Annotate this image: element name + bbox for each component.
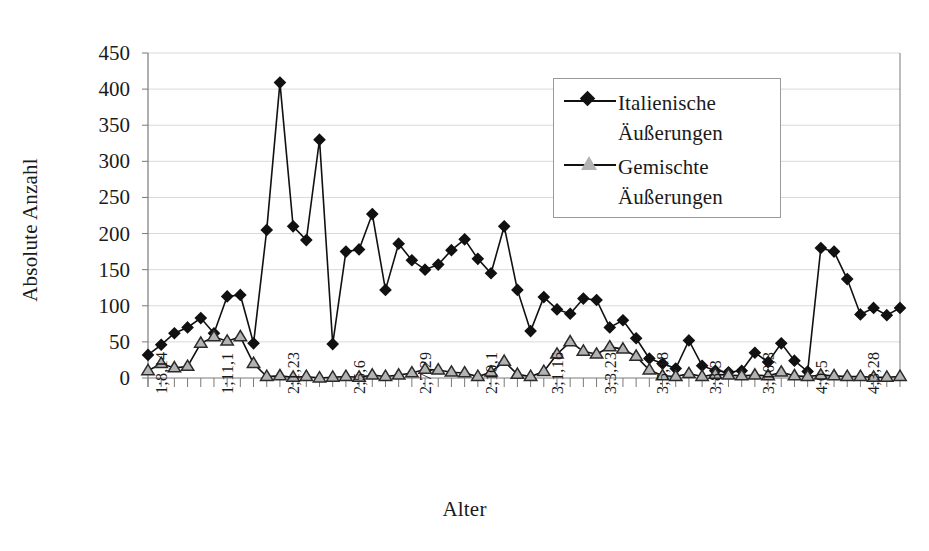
data-point-diamond (842, 274, 852, 284)
data-point-diamond (855, 309, 865, 319)
data-point-triangle (683, 367, 695, 377)
data-point-diamond (605, 322, 615, 332)
diamond-marker-icon (562, 88, 618, 114)
x-axis-title: Alter (0, 497, 929, 522)
y-tick-label: 50 (72, 331, 130, 352)
data-point-diamond (882, 310, 892, 320)
data-point-triangle (841, 370, 853, 380)
y-tick-label: 450 (72, 43, 130, 64)
data-point-diamond (525, 326, 535, 336)
x-tick-label: 2;5,6 (352, 360, 368, 394)
x-tick-label: 4;0,5 (814, 360, 830, 394)
x-tick-label: 1;8,14 (154, 352, 170, 394)
data-point-diamond (895, 303, 905, 313)
data-point-diamond (499, 221, 509, 231)
series-line-italienische (148, 83, 900, 373)
y-axis-title: Absolute Anzahl (18, 120, 43, 340)
data-point-triangle (881, 371, 893, 381)
data-point-triangle (181, 360, 193, 370)
data-point-diamond (512, 285, 522, 295)
y-tick-label: 400 (72, 79, 130, 100)
chart-figure: Absolute Anzahl 050100150200250300350400… (0, 0, 929, 551)
y-tick-label: 300 (72, 151, 130, 172)
x-tick-label: 2;10,1 (484, 352, 500, 394)
data-point-diamond (248, 338, 258, 348)
data-point-diamond (380, 285, 390, 295)
data-point-triangle (564, 336, 576, 346)
data-point-triangle (894, 370, 906, 380)
data-point-diamond (816, 243, 826, 253)
data-point-triangle (247, 357, 259, 367)
data-point-diamond (868, 303, 878, 313)
y-tick-label: 100 (72, 295, 130, 316)
y-tick-label: 200 (72, 223, 130, 244)
x-tick-label: 2;7,29 (418, 352, 434, 394)
data-point-diamond (341, 246, 351, 256)
data-point-diamond (222, 291, 232, 301)
data-point-triangle (327, 371, 339, 381)
y-tick-label: 150 (72, 259, 130, 280)
x-tick-label: 4;3,28 (866, 352, 882, 394)
x-tick-label: 3;1,16 (550, 352, 566, 394)
y-tick-label: 250 (72, 187, 130, 208)
data-point-diamond (235, 290, 245, 300)
data-point-diamond (829, 246, 839, 256)
data-point-diamond (275, 77, 285, 87)
x-tick-label: 3;8,3 (708, 360, 724, 394)
y-tick-label: 0 (72, 368, 130, 389)
x-tick-label: 1;11,1 (220, 352, 236, 394)
x-tick-label: 3;10,3 (761, 352, 777, 394)
data-point-diamond (182, 322, 192, 332)
plot-area (0, 0, 929, 551)
data-point-diamond (420, 264, 430, 274)
legend: Italienische Äußerungen Gemischte Äußeru… (553, 78, 781, 218)
x-tick-label: 3;5,18 (655, 352, 671, 394)
data-point-diamond (314, 134, 324, 144)
data-point-triangle (577, 345, 589, 355)
data-point-diamond (354, 244, 364, 254)
data-point-triangle (458, 367, 470, 377)
data-point-diamond (591, 295, 601, 305)
x-tick-label: 3;3,23 (603, 352, 619, 394)
y-axis-tick-labels: 050100150200250300350400450 (72, 0, 130, 551)
x-tick-label: 2;1,23 (286, 352, 302, 394)
data-point-diamond (367, 209, 377, 219)
y-tick-label: 350 (72, 115, 130, 136)
data-point-diamond (328, 339, 338, 349)
legend-entry-gemischte: Gemischte Äußerungen (562, 152, 776, 212)
data-point-triangle (234, 331, 246, 341)
legend-label: Gemischte Äußerungen (618, 152, 723, 212)
data-point-triangle (630, 350, 642, 360)
data-point-diamond (684, 335, 694, 345)
legend-label: Italienische Äußerungen (618, 88, 723, 148)
legend-entry-italienische: Italienische Äußerungen (562, 88, 776, 148)
data-point-diamond (644, 353, 654, 363)
triangle-marker-icon (562, 152, 618, 178)
